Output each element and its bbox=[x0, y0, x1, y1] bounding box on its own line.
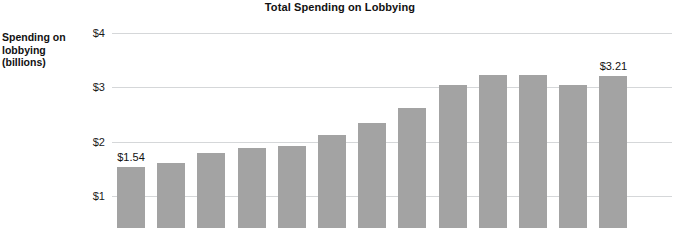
y-axis-label: Spending on lobbying (billions) bbox=[2, 31, 78, 69]
bar[interactable] bbox=[117, 167, 145, 228]
chart-title: Total Spending on Lobbying bbox=[0, 1, 680, 13]
bar[interactable] bbox=[599, 76, 627, 228]
bar[interactable] bbox=[559, 85, 587, 228]
y-axis-tick-label: $1 bbox=[93, 190, 105, 202]
y-axis-label-line-1: Spending on bbox=[2, 31, 78, 44]
y-axis-label-line-2: lobbying bbox=[2, 44, 78, 57]
bar[interactable] bbox=[238, 148, 266, 228]
plot-area: $1$2$3$4 $1.54$3.21 bbox=[112, 33, 672, 228]
y-axis-tick-label: $4 bbox=[93, 27, 105, 39]
bar[interactable] bbox=[278, 146, 306, 228]
bar[interactable] bbox=[519, 75, 547, 228]
y-axis-tick-label: $2 bbox=[93, 136, 105, 148]
bar[interactable] bbox=[479, 75, 507, 228]
bar[interactable] bbox=[157, 163, 185, 228]
bar-series bbox=[112, 33, 672, 228]
y-axis-tick-label: $3 bbox=[93, 81, 105, 93]
bar[interactable] bbox=[197, 153, 225, 228]
bar[interactable] bbox=[439, 85, 467, 228]
bar-value-label: $1.54 bbox=[117, 151, 145, 163]
bar[interactable] bbox=[358, 123, 386, 228]
bar[interactable] bbox=[398, 108, 426, 228]
chart-container: Total Spending on Lobbying Spending on l… bbox=[0, 0, 680, 228]
bar-value-label: $3.21 bbox=[600, 60, 628, 72]
bar[interactable] bbox=[318, 135, 346, 228]
y-axis-label-line-3: (billions) bbox=[2, 56, 78, 69]
